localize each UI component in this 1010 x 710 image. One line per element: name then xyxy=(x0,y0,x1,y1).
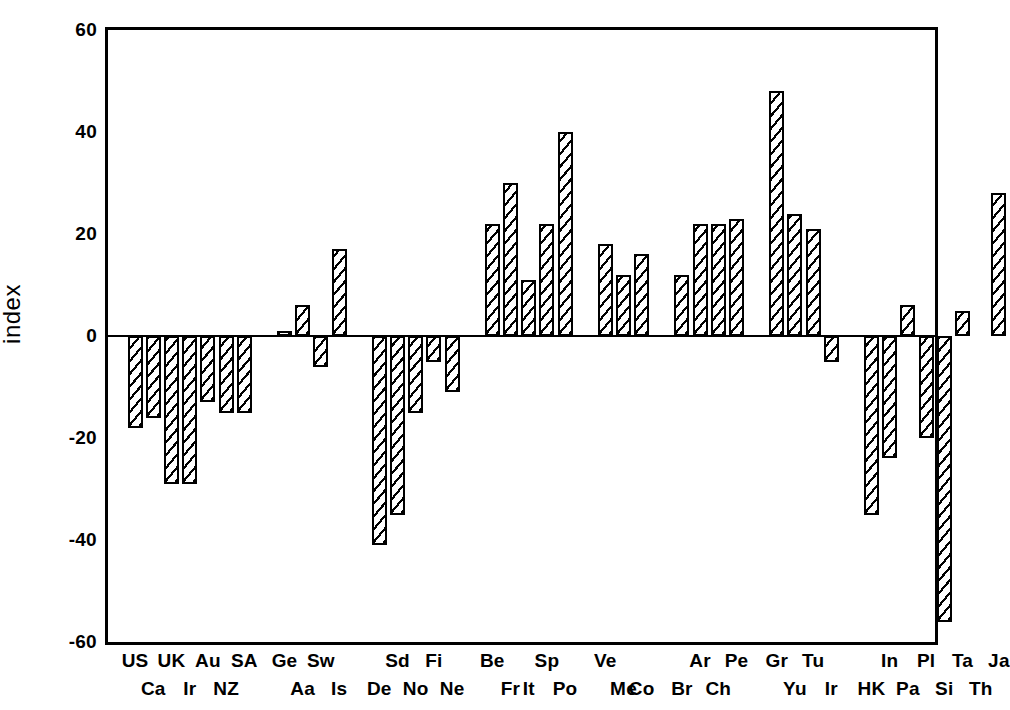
x-axis-tick-label: It xyxy=(523,678,535,700)
bar xyxy=(332,249,347,336)
bar xyxy=(558,132,573,336)
bar xyxy=(991,193,1006,336)
x-axis-tick-label: Ve xyxy=(594,650,617,672)
x-axis-tick-label: Pa xyxy=(896,678,920,700)
bar xyxy=(616,275,631,336)
bar xyxy=(313,336,328,367)
x-axis-tick-label: Gr xyxy=(765,650,788,672)
x-axis-tick-label: In xyxy=(881,650,898,672)
x-axis-tick-label: Co xyxy=(629,678,655,700)
bar xyxy=(128,336,143,428)
x-axis-tick-label: HK xyxy=(858,678,886,700)
y-axis-tick-label: 60 xyxy=(35,19,97,41)
x-axis-tick-label: Ta xyxy=(952,650,973,672)
bar xyxy=(864,336,879,515)
bar xyxy=(787,214,802,336)
x-axis-tick-label: Sw xyxy=(307,650,335,672)
bar xyxy=(219,336,234,413)
bar xyxy=(426,336,441,362)
x-axis-tick-label: Si xyxy=(935,678,953,700)
x-axis-tick-label: US xyxy=(122,650,149,672)
bar xyxy=(408,336,423,413)
x-axis-tick-label: Pl xyxy=(917,650,935,672)
bar xyxy=(955,311,970,337)
x-axis-tick-label: No xyxy=(403,678,429,700)
x-axis-tick-label: Is xyxy=(331,678,347,700)
x-axis-tick-label: Ca xyxy=(141,678,166,700)
bar xyxy=(711,224,726,336)
y-axis-tick-label: 20 xyxy=(35,223,97,245)
bar xyxy=(674,275,689,336)
x-axis-tick-label: Br xyxy=(671,678,693,700)
x-axis-tick-label: Tu xyxy=(802,650,824,672)
x-axis-tick-labels: USCaUKIrAuNZSAGeAaSwIsDeSdNoFiNeBeFrItSp… xyxy=(0,650,948,710)
bar xyxy=(390,336,405,515)
bar xyxy=(503,183,518,336)
x-axis-tick-label: Ne xyxy=(440,678,465,700)
x-axis-tick-label: Fi xyxy=(425,650,442,672)
plot-area xyxy=(108,30,935,642)
bar xyxy=(882,336,897,458)
bar xyxy=(539,224,554,336)
bar xyxy=(634,254,649,336)
bar xyxy=(693,224,708,336)
bar xyxy=(372,336,387,545)
bar xyxy=(277,331,292,336)
bar xyxy=(237,336,252,413)
x-axis-tick-label: Ir xyxy=(183,678,196,700)
x-axis-tick-label: Ja xyxy=(988,650,1010,672)
bar xyxy=(824,336,839,362)
x-axis-tick-label: Sd xyxy=(385,650,410,672)
x-axis-tick-label: Th xyxy=(969,678,993,700)
bar xyxy=(485,224,500,336)
x-axis-tick-label: Ir xyxy=(825,678,838,700)
x-axis-tick-label: SA xyxy=(231,650,258,672)
bar xyxy=(729,219,744,336)
bar xyxy=(919,336,934,438)
bar xyxy=(295,305,310,336)
x-axis-tick-label: Sp xyxy=(535,650,560,672)
bar xyxy=(521,280,536,336)
bar xyxy=(164,336,179,484)
bar xyxy=(937,336,952,622)
x-axis-tick-label: Aa xyxy=(290,678,315,700)
x-axis-tick-label: Po xyxy=(553,678,578,700)
bar xyxy=(806,229,821,336)
y-axis-tick-labels: 6040200-20-40-60 xyxy=(22,27,97,645)
bar xyxy=(598,244,613,336)
x-axis-tick-label: NZ xyxy=(213,678,239,700)
bar xyxy=(900,305,915,336)
y-axis-tick-label: 40 xyxy=(35,121,97,143)
x-axis-tick-label: Fr xyxy=(501,678,520,700)
x-axis-tick-label: Ar xyxy=(689,650,711,672)
bar xyxy=(445,336,460,392)
x-axis-tick-label: Be xyxy=(480,650,505,672)
x-axis-tick-label: Au xyxy=(195,650,221,672)
bar xyxy=(200,336,215,402)
y-axis-tick-label: -40 xyxy=(35,529,97,551)
x-axis-tick-label: De xyxy=(367,678,392,700)
bar xyxy=(146,336,161,418)
x-axis-tick-label: Yu xyxy=(783,678,807,700)
x-axis-tick-label: Ch xyxy=(705,678,731,700)
y-axis-tick-label: -20 xyxy=(35,427,97,449)
x-axis-tick-label: Ge xyxy=(272,650,298,672)
bar xyxy=(182,336,197,484)
bar xyxy=(769,91,784,336)
x-axis-tick-label: Pe xyxy=(725,650,749,672)
x-axis-tick-label: UK xyxy=(158,650,186,672)
y-axis-tick-label: 0 xyxy=(35,325,97,347)
